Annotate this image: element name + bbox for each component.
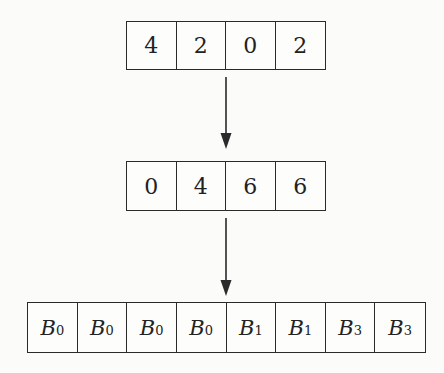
- input-counts-array: 4 2 0 2: [126, 21, 326, 70]
- bucket-cell: B3: [375, 303, 425, 352]
- bucket-cell: B0: [127, 303, 177, 352]
- array-cell: 0: [127, 162, 177, 210]
- array-cell: 6: [276, 162, 326, 210]
- bucket-cell: B1: [276, 303, 326, 352]
- array-cell: 2: [177, 22, 227, 69]
- down-arrow-icon: [219, 77, 233, 149]
- down-arrow-icon: [219, 218, 233, 296]
- bucket-cell: B3: [326, 303, 376, 352]
- bucket-cell: B0: [28, 303, 78, 352]
- array-cell: 6: [226, 162, 276, 210]
- bucket-cell: B0: [177, 303, 227, 352]
- array-cell: 4: [127, 22, 177, 69]
- bucket-cell: B0: [78, 303, 128, 352]
- array-cell: 0: [226, 22, 276, 69]
- prefix-sums-array: 0 4 6 6: [126, 161, 326, 211]
- output-buckets-array: B0 B0 B0 B0 B1 B1 B3 B3: [27, 302, 426, 353]
- bucket-cell: B1: [227, 303, 277, 352]
- array-cell: 4: [177, 162, 227, 210]
- array-cell: 2: [276, 22, 326, 69]
